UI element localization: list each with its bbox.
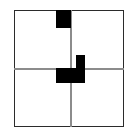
top-black-square	[56, 10, 71, 28]
center-block-upper-arm	[76, 55, 85, 69]
center-block-lower-bar	[56, 68, 85, 83]
figure-canvas	[0, 0, 138, 139]
